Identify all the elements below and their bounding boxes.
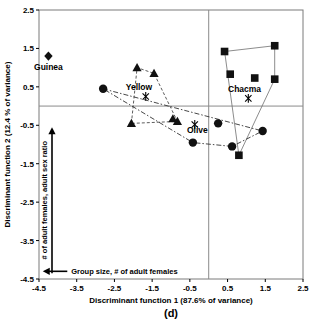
centroid-marker-chacma [245,94,251,103]
series-chacma [221,42,279,159]
y-tick-label: -3.5 [20,237,34,246]
y-tick-label: -4.5 [20,275,34,284]
plot-frame [39,10,303,279]
centroid-marker-yellow [143,92,149,101]
data-point-yellow [132,63,141,71]
y-tick-label: 0.5 [23,83,35,92]
y-loading-arrow-head [48,127,55,134]
data-point-chacma [271,42,279,50]
data-point-olive [258,127,266,135]
data-point-chacma [221,48,229,56]
panel-label: (d) [164,307,178,319]
cluster-hull-chacma [225,46,275,156]
data-points-layer [44,42,278,159]
y-tick-label: -0.5 [20,121,34,130]
x-tick-label: 1.5 [260,284,272,293]
series-label-guinea: Guinea [34,62,63,72]
x-tick-label: 0.5 [222,284,234,293]
annotation-layer: # of adult females, adult sex ratioGroup… [40,127,178,276]
series-label-chacma: Chacma [228,84,261,94]
data-point-guinea [44,52,52,61]
cluster-hull-layer [103,46,275,156]
data-point-olive [214,119,222,127]
cluster-hull-olive [103,89,263,147]
x-loading-arrow-head [43,268,50,275]
series-yellow [127,63,182,127]
data-point-yellow [149,69,158,77]
x-axis-title: Discriminant function 1 (87.6% of varian… [89,296,253,305]
x-tick-label: -1.5 [145,284,159,293]
discriminant-function-scatter-figure: -4.5-3.5-2.5-1.5-0.50.51.52.5-4.5-3.5-2.… [0,0,311,323]
y-tick-label: 2.5 [23,6,35,15]
data-point-olive [228,142,236,150]
y-tick-label: 1.5 [23,44,35,53]
series-guinea [44,52,52,61]
plot-canvas: -4.5-3.5-2.5-1.5-0.50.51.52.5-4.5-3.5-2.… [0,0,311,323]
axes-layer: -4.5-3.5-2.5-1.5-0.50.51.52.5-4.5-3.5-2.… [20,6,309,293]
y-tick-label: -2.5 [20,198,34,207]
x-loading-arrow-label: Group size, # of adult females [71,267,177,276]
data-point-chacma [271,75,279,83]
series-label-yellow: Yellow [126,82,153,92]
y-loading-arrow-label: # of adult females, adult sex ratio [40,141,49,260]
y-axis-title: Discriminant function 2 (12.4 % of varia… [3,61,12,227]
series-label-olive: Olive [187,125,208,135]
x-tick-label: -2.5 [108,284,122,293]
y-tick-label: -1.5 [20,160,34,169]
data-point-olive [189,138,197,146]
data-point-chacma [226,70,234,78]
x-tick-label: -4.5 [32,284,46,293]
data-point-chacma [235,151,243,159]
x-tick-label: -0.5 [183,284,197,293]
x-tick-label: -3.5 [70,284,84,293]
data-point-olive [99,85,107,93]
data-point-chacma [251,74,259,82]
x-tick-label: 2.5 [297,284,309,293]
